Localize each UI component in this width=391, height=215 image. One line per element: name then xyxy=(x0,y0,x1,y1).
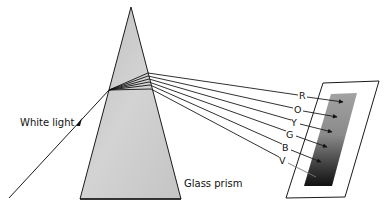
spectrum-label-yellow: Y xyxy=(290,117,297,128)
ray-violet xyxy=(151,89,279,157)
spectrum-label-green: G xyxy=(286,129,293,140)
ray-red xyxy=(148,73,298,95)
spectrum-label-blue: B xyxy=(282,142,289,153)
glass-prism xyxy=(80,7,181,199)
white-light-label: White light xyxy=(20,117,74,128)
spectrum-label-violet: V xyxy=(279,155,286,166)
spectrum-label-red: R xyxy=(299,90,306,101)
incoming-ray-arrow-icon xyxy=(76,118,82,126)
ray-green xyxy=(149,82,286,131)
prism-dispersion-diagram: White light Glass prism R O Y G B V xyxy=(0,0,391,215)
spectrum-label-orange: O xyxy=(294,104,301,115)
ray-orange xyxy=(148,76,293,108)
glass-prism-label: Glass prism xyxy=(184,178,242,189)
ray-blue xyxy=(150,85,282,144)
